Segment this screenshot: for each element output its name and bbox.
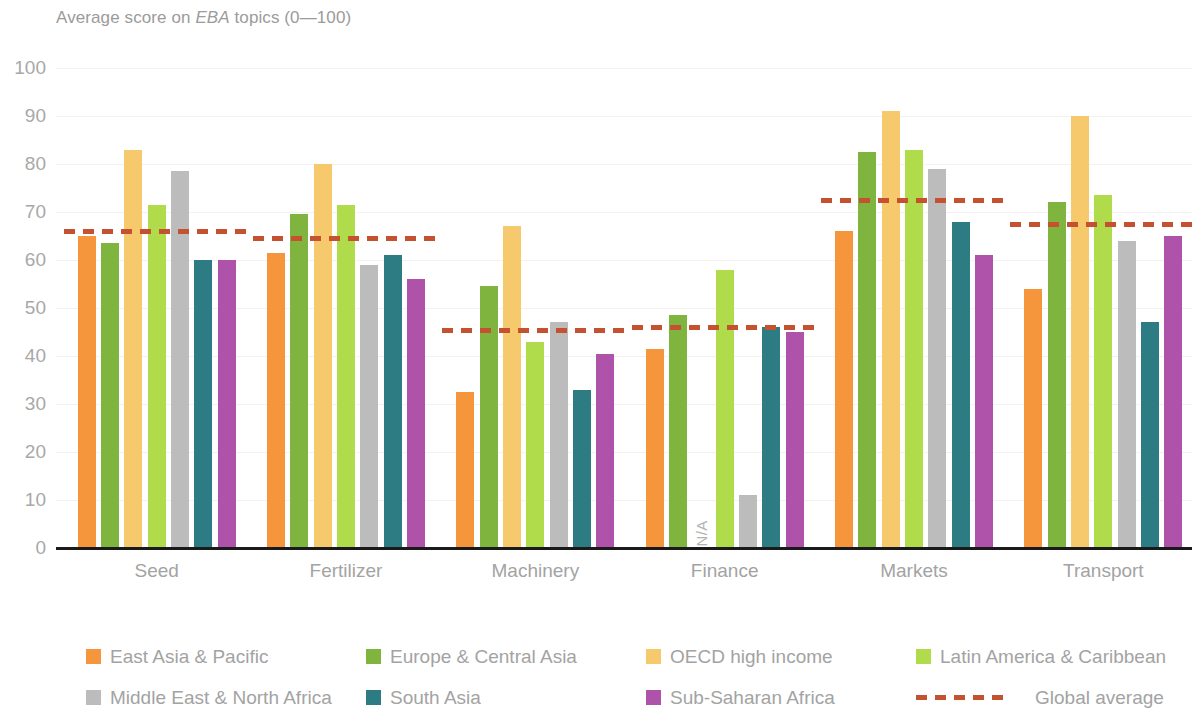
legend-dash-icon xyxy=(916,695,1004,700)
global-average-line xyxy=(1010,222,1192,227)
chart-title-emphasis: EBA xyxy=(195,8,229,27)
y-axis-tick-label: 40 xyxy=(25,345,46,367)
legend-label: South Asia xyxy=(390,687,481,709)
y-axis-tick-label: 100 xyxy=(14,57,46,79)
legend-item[interactable]: East Asia & Pacific xyxy=(86,646,366,668)
legend-item[interactable]: Sub-Saharan Africa xyxy=(646,687,916,709)
legend-label: Europe & Central Asia xyxy=(390,646,577,668)
y-axis-tick-label: 20 xyxy=(25,441,46,463)
legend-label: Latin America & Caribbean xyxy=(940,646,1166,668)
y-axis-tick-label: 80 xyxy=(25,153,46,175)
x-axis-tick-label: Machinery xyxy=(492,560,580,582)
x-axis-tick-label: Fertilizer xyxy=(310,560,383,582)
legend-item[interactable]: South Asia xyxy=(366,687,646,709)
legend-swatch-icon xyxy=(366,649,381,664)
y-axis-tick-label: 10 xyxy=(25,489,46,511)
x-axis-tick-label: Seed xyxy=(134,560,178,582)
legend-swatch-icon xyxy=(646,690,661,705)
y-axis-tick-label: 60 xyxy=(25,249,46,271)
legend-swatch-icon xyxy=(646,649,661,664)
legend-item[interactable]: OECD high income xyxy=(646,646,916,668)
y-axis-tick-label: 0 xyxy=(35,537,46,559)
legend-label: OECD high income xyxy=(670,646,833,668)
global-average-line xyxy=(442,328,628,333)
legend-item[interactable]: Europe & Central Asia xyxy=(366,646,646,668)
global-average-line xyxy=(64,229,250,234)
global-average-line xyxy=(821,198,1007,203)
legend-item[interactable]: Latin America & Caribbean xyxy=(916,646,1192,668)
legend-label: Global average xyxy=(1035,687,1164,709)
legend-item[interactable]: Middle East & North Africa xyxy=(86,687,366,709)
global-average-line xyxy=(632,325,818,330)
x-axis-tick-label: Transport xyxy=(1063,560,1144,582)
y-axis-tick-label: 50 xyxy=(25,297,46,319)
legend-swatch-icon xyxy=(86,649,101,664)
legend-label: East Asia & Pacific xyxy=(110,646,268,668)
global-average-lines xyxy=(56,68,1192,548)
x-axis-tick-label: Finance xyxy=(691,560,759,582)
chart-title-prefix: Average score on xyxy=(56,8,195,27)
chart-legend: East Asia & PacificEurope & Central Asia… xyxy=(86,636,1192,716)
legend-item-global-average[interactable]: Global average xyxy=(916,687,1192,709)
y-axis-tick-label: 90 xyxy=(25,105,46,127)
legend-swatch-icon xyxy=(366,690,381,705)
x-axis: SeedFertilizerMachineryFinanceMarketsTra… xyxy=(56,556,1192,596)
chart-title: Average score on EBA topics (0—100) xyxy=(56,8,351,28)
legend-label: Sub-Saharan Africa xyxy=(670,687,835,709)
chart-title-suffix: topics (0—100) xyxy=(230,8,352,27)
x-axis-baseline xyxy=(56,547,1192,550)
x-axis-tick-label: Markets xyxy=(880,560,948,582)
plot-area: N/A xyxy=(56,68,1192,548)
y-axis: 1009080706050403020100 xyxy=(0,68,46,548)
legend-swatch-icon xyxy=(86,690,101,705)
legend-swatch-icon xyxy=(916,649,931,664)
y-axis-tick-label: 30 xyxy=(25,393,46,415)
y-axis-tick-label: 70 xyxy=(25,201,46,223)
legend-label: Middle East & North Africa xyxy=(110,687,332,709)
global-average-line xyxy=(253,236,439,241)
bar-chart: Average score on EBA topics (0—100) 1009… xyxy=(0,0,1192,716)
